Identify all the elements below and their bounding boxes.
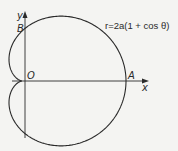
diagram-svg: y B O A x r=2a(1 + cos θ)	[0, 0, 178, 151]
equation-label: r=2a(1 + cos θ)	[105, 20, 169, 31]
point-b-label: B	[17, 23, 24, 34]
y-axis-label: y	[16, 10, 24, 21]
x-axis-label: x	[141, 82, 148, 93]
cardioid-diagram: y B O A x r=2a(1 + cos θ)	[0, 0, 178, 151]
point-a-label: A	[127, 70, 135, 81]
y-axis-arrow-icon	[23, 11, 28, 18]
origin-label: O	[27, 70, 35, 81]
